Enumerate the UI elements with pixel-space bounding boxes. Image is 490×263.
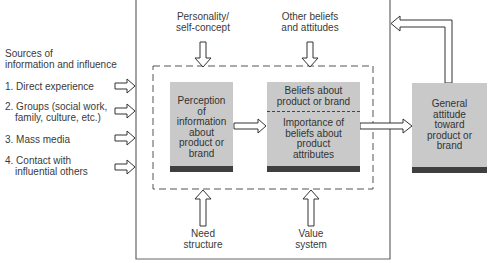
influence-label: Personality/ — [163, 11, 243, 22]
influence-label: and attitudes — [270, 22, 350, 33]
box-line: Importance of — [267, 118, 360, 129]
general-attitude-box: General attitude toward product or brand — [412, 83, 487, 173]
source-item-label: 3. Mass media — [5, 134, 70, 145]
arrow-down-icon — [302, 42, 318, 67]
source-item-label: 4. Contact with — [5, 155, 88, 166]
box-line: toward — [412, 120, 487, 131]
source-item-mass-media: 3. Mass media — [5, 134, 70, 145]
box-line: product or brand — [267, 97, 360, 108]
sources-heading: Sources of information and influence — [5, 48, 117, 70]
arrow-up-icon — [303, 190, 319, 226]
influence-label: structure — [168, 239, 238, 250]
influence-label: Need — [168, 228, 238, 239]
box-line: brand — [170, 149, 233, 160]
box-line: product — [267, 139, 360, 150]
influence-label: Other beliefs — [270, 11, 350, 22]
influence-label: system — [276, 239, 346, 250]
arrow-right-icon — [115, 104, 135, 118]
arrow-right-icon — [115, 160, 135, 174]
sources-heading-line: Sources of — [5, 48, 117, 59]
source-item-label: family, culture, etc.) — [5, 112, 107, 123]
box-bar — [170, 166, 233, 172]
source-item-direct-experience: 1. Direct experience — [5, 81, 94, 92]
influence-need-structure: Need structure — [168, 228, 238, 250]
source-item-contact: 4. Contact with influential others — [5, 155, 88, 177]
attitude-text: General attitude toward product or brand — [412, 99, 487, 152]
importance-text: Importance of beliefs about product attr… — [267, 118, 360, 160]
source-item-label: 2. Groups (social work, — [5, 101, 107, 112]
arrow-right-icon — [234, 119, 266, 133]
box-line: product or — [170, 138, 233, 149]
feedback-arrow-icon — [391, 16, 452, 83]
arrow-right-icon — [115, 79, 135, 93]
beliefs-importance-box: Beliefs about product or brand Importanc… — [267, 82, 360, 172]
source-item-groups: 2. Groups (social work, family, culture,… — [5, 101, 107, 123]
arrow-down-icon — [195, 42, 211, 67]
sources-heading-line: information and influence — [5, 59, 117, 70]
arrow-up-icon — [195, 190, 211, 226]
box-line: information — [170, 117, 233, 128]
influence-other-beliefs: Other beliefs and attitudes — [270, 11, 350, 33]
box-divider — [267, 111, 360, 112]
box-bar — [412, 167, 487, 173]
box-line: Beliefs about — [267, 86, 360, 97]
box-line: Perception — [170, 96, 233, 107]
source-item-label: 1. Direct experience — [5, 81, 94, 92]
influence-label: self-concept — [163, 22, 243, 33]
source-item-label: influential others — [5, 166, 88, 177]
influence-value-system: Value system — [276, 228, 346, 250]
arrow-right-icon — [115, 131, 135, 145]
beliefs-text: Beliefs about product or brand — [267, 86, 360, 107]
arrow-right-icon — [360, 119, 412, 133]
box-line: General — [412, 99, 487, 110]
box-line: brand — [412, 141, 487, 152]
influence-personality: Personality/ self-concept — [163, 11, 243, 33]
perception-box-text: Perception of information about product … — [170, 96, 233, 159]
box-bar — [267, 166, 360, 172]
perception-box: Perception of information about product … — [170, 82, 233, 172]
box-line: attributes — [267, 150, 360, 161]
influence-label: Value — [276, 228, 346, 239]
